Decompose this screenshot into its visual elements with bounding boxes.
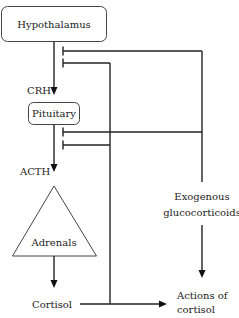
arrowhead-icon [199, 270, 206, 278]
exogenous-glucocorticoids-node: Exogenous glucocorticoids [163, 191, 239, 218]
acth-arrow: ACTH [19, 125, 58, 178]
exogenous-label-line1: Exogenous [174, 191, 229, 202]
adrenals-to-cortisol-arrow [51, 256, 58, 288]
pituitary-node: Pituitary [29, 103, 80, 125]
adrenals-node: Adrenals [13, 186, 97, 256]
exogenous-to-actions-arrow [199, 225, 206, 278]
hypothalamus-label: Hypothalamus [17, 19, 90, 30]
cortisol-feedback-line [63, 59, 110, 305]
actions-label-line2: cortisol [177, 304, 215, 315]
acth-label: ACTH [19, 166, 51, 177]
actions-of-cortisol-node: Actions of cortisol [176, 290, 229, 315]
crh-label: CRH [27, 85, 51, 96]
adrenals-label: Adrenals [30, 237, 76, 248]
cortisol-label: Cortisol [32, 299, 72, 310]
exogenous-feedback-line [63, 47, 202, 183]
pituitary-label: Pituitary [32, 108, 76, 119]
hypothalamus-node: Hypothalamus [2, 7, 107, 42]
arrowhead-icon [51, 280, 58, 288]
hpa-axis-diagram: Hypothalamus CRH Pituitary ACTH Adrenals… [0, 0, 239, 318]
arrowhead-icon [51, 164, 58, 172]
actions-label-line1: Actions of [176, 290, 229, 301]
arrowhead-icon [51, 87, 58, 95]
exogenous-label-line2: glucocorticoids [163, 207, 239, 218]
arrowhead-icon [159, 301, 167, 308]
crh-arrow: CRH [27, 42, 58, 97]
cortisol-to-actions-arrow [80, 301, 167, 308]
